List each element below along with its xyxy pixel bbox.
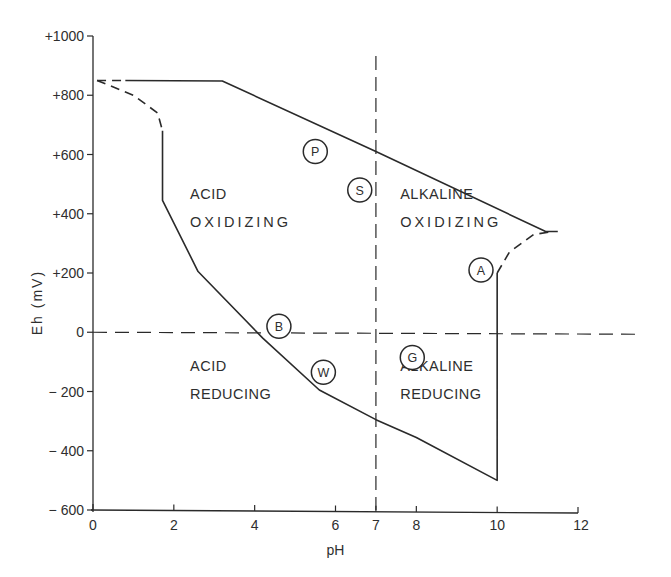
- y-tick-label: +800: [52, 87, 84, 103]
- marker-letter: W: [317, 366, 329, 380]
- region-label: OXIDIZING: [190, 214, 291, 230]
- x-tick-label: 7: [372, 517, 380, 533]
- x-tick-label: 6: [332, 517, 340, 533]
- region-label: ALKALINE: [400, 186, 473, 202]
- zero-eh-line: [93, 332, 640, 334]
- x-axis-title: pH: [327, 542, 345, 558]
- region-label: ACID: [190, 186, 227, 202]
- marker-a: A: [469, 258, 493, 282]
- boundary-line: [97, 80, 162, 130]
- marker-letter: S: [356, 184, 364, 198]
- x-axis-line: [91, 510, 578, 513]
- region-labels: ACIDOXIDIZINGALKALINEOXIDIZINGACIDREDUCI…: [190, 186, 501, 402]
- x-tick-label: 12: [573, 517, 589, 533]
- marker-letter: P: [311, 145, 319, 159]
- x-tick-label: 4: [251, 517, 259, 533]
- region-label: REDUCING: [190, 386, 271, 402]
- region-label: REDUCING: [400, 386, 481, 402]
- y-tick-label: +200: [52, 265, 84, 281]
- marker-letter: B: [275, 320, 283, 334]
- y-tick-label: +400: [52, 206, 84, 222]
- marker-b: B: [267, 314, 291, 338]
- x-tick-label: 10: [489, 517, 505, 533]
- marker-letter: A: [477, 264, 486, 278]
- y-axis-title: Eh (mV): [29, 270, 45, 335]
- reference-lines: [93, 56, 640, 510]
- marker-s: S: [348, 178, 372, 202]
- x-tick-label: 0: [89, 517, 97, 533]
- y-tick-label: − 200: [49, 384, 85, 400]
- axes: +1000+800+600+400+2000− 200− 400− 600024…: [45, 28, 589, 533]
- boundary-line: [497, 232, 554, 273]
- eh-ph-diagram: +1000+800+600+400+2000− 200− 400− 600024…: [0, 0, 671, 577]
- y-tick-label: +1000: [45, 28, 85, 44]
- y-tick-label: − 600: [49, 502, 85, 518]
- boundary-lines: [97, 80, 558, 480]
- x-tick-label: 8: [412, 517, 420, 533]
- x-tick-label: 2: [170, 517, 178, 533]
- marker-letter: G: [407, 351, 417, 365]
- y-tick-label: +600: [52, 147, 84, 163]
- marker-w: W: [311, 360, 335, 384]
- marker-g: G: [400, 345, 424, 369]
- boundary-line: [163, 131, 498, 481]
- region-label: OXIDIZING: [400, 214, 501, 230]
- region-label: ACID: [190, 358, 227, 374]
- marker-p: P: [303, 140, 327, 164]
- sample-markers: PSABWG: [267, 140, 493, 385]
- y-tick-label: − 400: [49, 443, 85, 459]
- y-tick-label: 0: [76, 324, 84, 340]
- boundary-line: [125, 80, 557, 231]
